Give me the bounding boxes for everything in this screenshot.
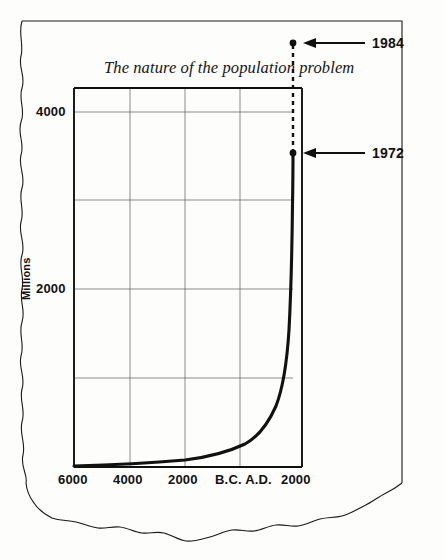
- x-tick-label-2000bc: 2000: [168, 472, 198, 487]
- marker-dot-1984: [290, 40, 297, 47]
- y-tick-label-2000: 2000: [36, 281, 66, 296]
- x-tick-label-6000bc: 6000: [58, 472, 88, 487]
- x-tick-label-4000bc: 4000: [113, 472, 143, 487]
- y-axis-title: Millions: [20, 257, 32, 300]
- plot-frame: [74, 88, 302, 467]
- gridlines: [74, 88, 293, 467]
- x-tick-label-bc-ad: B.C. A.D.: [215, 472, 272, 487]
- annotation-arrow-1984: [303, 38, 365, 48]
- scanned-page: The nature of the population problem 400…: [0, 0, 444, 560]
- x-tick-label-2000ad: 2000: [281, 472, 311, 487]
- marker-dot-1972: [290, 150, 297, 157]
- annotation-label-1984: 1984: [372, 35, 404, 51]
- chart-title: The nature of the population problem: [104, 58, 354, 78]
- annotation-label-1972: 1972: [372, 145, 404, 161]
- annotation-arrow-1972: [303, 148, 365, 158]
- y-tick-label-4000: 4000: [36, 104, 66, 119]
